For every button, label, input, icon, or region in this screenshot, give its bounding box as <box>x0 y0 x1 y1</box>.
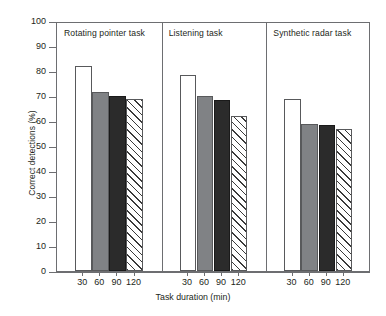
y-tick-label: 90 <box>22 41 46 51</box>
y-tick-label: 20 <box>22 216 46 226</box>
y-tick-label: 60 <box>22 116 46 126</box>
y-tick-mark <box>49 197 56 198</box>
bar <box>109 96 126 271</box>
x-tick-mark <box>326 272 327 276</box>
bar <box>75 66 92 271</box>
group-title: Listening task <box>169 28 223 38</box>
x-tick-mark <box>134 272 135 276</box>
x-axis-line <box>56 272 370 273</box>
x-tick-mark <box>99 272 100 276</box>
bar <box>180 75 197 271</box>
y-tick-label: 70 <box>22 91 46 101</box>
group-title: Synthetic radar task <box>273 28 351 38</box>
y-tick-mark <box>49 97 56 98</box>
y-tick-label: 50 <box>22 141 46 151</box>
bar <box>231 116 248 271</box>
y-tick-mark <box>49 22 56 23</box>
y-tick-label: 80 <box>22 66 46 76</box>
x-tick-mark <box>221 272 222 276</box>
bar <box>126 99 143 272</box>
bar <box>301 124 318 272</box>
x-tick-label: 120 <box>119 277 149 287</box>
y-tick-mark <box>49 147 56 148</box>
x-tick-mark <box>309 272 310 276</box>
y-tick-mark <box>49 247 56 248</box>
x-tick-mark <box>204 272 205 276</box>
x-tick-mark <box>238 272 239 276</box>
bar <box>319 125 336 271</box>
x-axis-title: Task duration (min) <box>0 292 386 302</box>
bar <box>92 92 109 271</box>
y-tick-label: 40 <box>22 166 46 176</box>
x-tick-mark <box>292 272 293 276</box>
bar <box>214 100 231 271</box>
x-tick-label: 120 <box>328 277 358 287</box>
y-tick-mark <box>49 222 56 223</box>
bar <box>197 96 214 271</box>
y-tick-label: 10 <box>22 241 46 251</box>
x-tick-mark <box>82 272 83 276</box>
group-title: Rotating pointer task <box>64 28 145 38</box>
y-tick-mark <box>49 272 56 273</box>
x-tick-label: 120 <box>223 277 253 287</box>
y-tick-label: 30 <box>22 191 46 201</box>
bar <box>336 129 353 272</box>
y-tick-label: 100 <box>22 16 46 26</box>
y-tick-mark <box>49 47 56 48</box>
group-separator <box>266 23 267 273</box>
group-separator <box>162 23 163 273</box>
y-tick-label: 0 <box>22 266 46 276</box>
y-tick-mark <box>49 72 56 73</box>
plot-area <box>56 22 370 272</box>
x-tick-mark <box>187 272 188 276</box>
y-tick-mark <box>49 122 56 123</box>
x-tick-mark <box>343 272 344 276</box>
bar <box>284 99 301 272</box>
x-tick-mark <box>116 272 117 276</box>
chart-figure: Correct detections (%) 01020304050607080… <box>0 0 386 316</box>
y-tick-mark <box>49 172 56 173</box>
